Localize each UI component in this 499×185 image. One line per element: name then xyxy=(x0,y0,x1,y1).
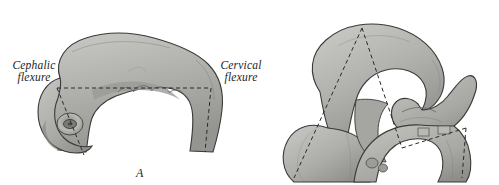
panel-letter-a: A xyxy=(136,166,143,181)
panel-a: Cephalic flexure Cervical flexure A xyxy=(0,0,250,185)
brain-body-a xyxy=(38,33,222,153)
panel-b: Cephalic flexure Cervical flexure Pontin… xyxy=(250,0,499,185)
label-cephalic-flexure-a: Cephalic flexure xyxy=(2,60,66,83)
specimen-illustration-b xyxy=(250,0,499,185)
specimen-illustration-a xyxy=(0,0,250,185)
anatomical-figure: Cephalic flexure Cervical flexure A xyxy=(0,0,499,185)
brain-body-b xyxy=(283,24,476,182)
